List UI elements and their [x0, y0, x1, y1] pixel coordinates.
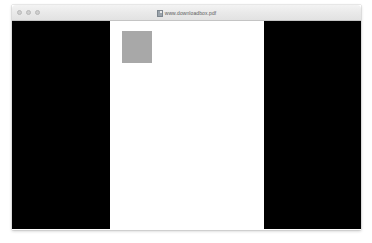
- application-window: www.downloadbox.pdf: [12, 5, 361, 230]
- zoom-button[interactable]: [35, 10, 40, 15]
- left-black-panel: [12, 21, 110, 229]
- document-canvas[interactable]: [12, 21, 361, 230]
- document-icon: [157, 10, 163, 17]
- screen: www.downloadbox.pdf: [0, 0, 372, 243]
- gray-square: [122, 31, 152, 63]
- minimize-button[interactable]: [26, 10, 31, 15]
- close-button[interactable]: [17, 10, 22, 15]
- window-controls: [17, 10, 40, 15]
- window-title-group: www.downloadbox.pdf: [12, 5, 361, 21]
- window-titlebar[interactable]: www.downloadbox.pdf: [12, 5, 361, 21]
- window-title: www.downloadbox.pdf: [165, 10, 217, 16]
- right-black-panel: [264, 21, 361, 229]
